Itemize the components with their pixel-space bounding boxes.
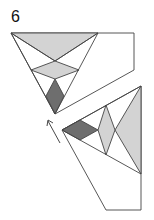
fold-diagram bbox=[0, 0, 154, 220]
rotated-triangle-bottom bbox=[62, 86, 141, 210]
rotate-arrow-icon bbox=[47, 120, 60, 143]
diagram: 6 bbox=[0, 0, 154, 220]
